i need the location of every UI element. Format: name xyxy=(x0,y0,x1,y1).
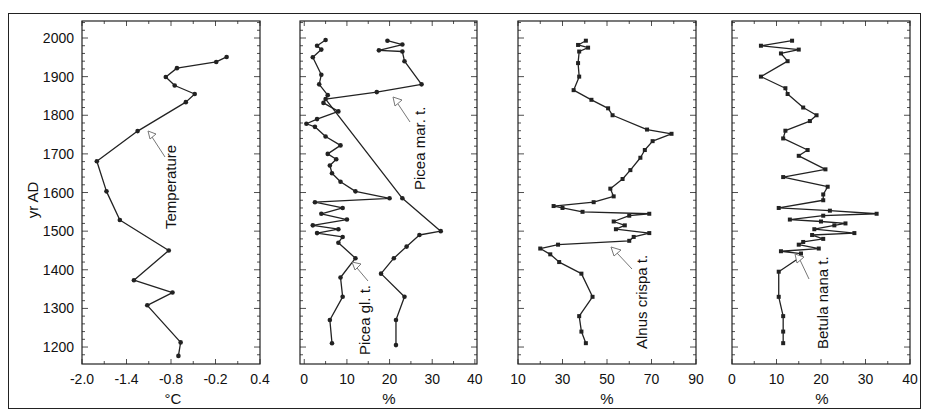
data-point xyxy=(821,237,825,241)
data-point xyxy=(783,86,787,90)
plot-area xyxy=(518,21,696,364)
data-point xyxy=(548,252,552,256)
data-point xyxy=(638,156,642,160)
data-point xyxy=(417,233,422,238)
picea-gl-arrow-icon xyxy=(352,262,368,281)
data-point xyxy=(781,175,785,179)
data-point xyxy=(786,92,790,96)
data-point xyxy=(759,44,763,48)
data-point xyxy=(584,39,588,43)
data-point xyxy=(632,235,636,239)
data-point xyxy=(557,260,561,264)
data-point xyxy=(821,198,825,202)
data-point xyxy=(328,163,333,168)
data-point xyxy=(394,318,399,323)
data-point xyxy=(325,93,330,98)
data-point xyxy=(781,314,785,318)
data-point xyxy=(166,248,171,253)
x-tick-label: 70 xyxy=(644,371,660,387)
data-point xyxy=(330,341,335,346)
data-point xyxy=(572,88,576,92)
x-tick-label: 20 xyxy=(382,371,398,387)
data-point xyxy=(438,229,443,234)
data-point xyxy=(135,129,140,134)
panel3-x-axis-title: % xyxy=(600,390,613,407)
data-point xyxy=(400,196,405,201)
data-point xyxy=(95,159,100,164)
data-point xyxy=(875,212,879,216)
data-point xyxy=(313,125,318,130)
data-point xyxy=(786,59,790,63)
data-point xyxy=(670,132,674,136)
data-point xyxy=(321,101,326,106)
data-point xyxy=(843,221,847,225)
data-point xyxy=(581,210,585,214)
x-tick-label: 30 xyxy=(858,371,874,387)
data-point xyxy=(336,227,341,232)
panel1-x-axis-title: °C xyxy=(165,390,182,407)
x-tick-label: 20 xyxy=(813,371,829,387)
data-point xyxy=(781,136,785,140)
data-point xyxy=(759,75,763,79)
data-point xyxy=(808,119,812,123)
data-point xyxy=(104,189,109,194)
x-tick-label: -0.8 xyxy=(159,371,183,387)
data-point xyxy=(340,295,345,300)
data-point xyxy=(172,83,177,88)
data-point xyxy=(577,314,581,318)
data-point xyxy=(627,214,631,218)
data-point xyxy=(647,212,651,216)
data-point xyxy=(852,231,856,235)
data-point xyxy=(323,134,328,139)
data-point xyxy=(338,143,343,148)
data-point xyxy=(353,256,358,261)
data-point xyxy=(145,303,150,308)
data-point xyxy=(323,38,328,43)
data-point xyxy=(579,272,583,276)
data-point xyxy=(579,330,583,334)
data-point xyxy=(340,206,345,211)
data-point xyxy=(317,82,322,87)
data-point xyxy=(779,51,783,55)
y-tick-label: 1200 xyxy=(43,339,74,355)
data-point xyxy=(338,275,343,280)
data-point xyxy=(799,252,803,256)
x-tick-label: 10 xyxy=(769,371,785,387)
pollen-temperature-chart: -2.0-1.4-0.8-0.20.4120013001400150016001… xyxy=(0,0,930,419)
data-point xyxy=(614,227,618,231)
x-tick-label: 50 xyxy=(599,371,615,387)
data-point xyxy=(353,189,358,194)
x-tick-label: 0.4 xyxy=(250,371,270,387)
data-point xyxy=(586,46,590,50)
panel2-x-axis-title: % xyxy=(382,390,395,407)
x-tick-label: 30 xyxy=(555,371,571,387)
x-tick-label: -0.2 xyxy=(203,371,227,387)
data-point xyxy=(313,200,318,205)
data-point xyxy=(826,185,830,189)
data-point xyxy=(400,49,405,54)
data-point xyxy=(330,171,335,176)
data-point xyxy=(385,38,390,43)
data-point xyxy=(402,295,407,300)
data-point xyxy=(325,152,330,157)
y-tick-label: 1800 xyxy=(43,107,74,123)
series-line xyxy=(326,41,441,345)
panel-3: 1030507090 xyxy=(510,21,704,387)
data-point xyxy=(328,318,333,323)
data-point xyxy=(118,218,123,223)
data-point xyxy=(801,240,805,244)
data-point xyxy=(592,200,596,204)
data-point xyxy=(797,154,801,158)
data-point xyxy=(340,235,345,240)
data-point xyxy=(170,290,175,295)
data-point xyxy=(345,217,350,222)
data-point xyxy=(797,243,801,247)
data-point xyxy=(184,100,189,105)
temperature-arrow-icon xyxy=(148,131,165,157)
data-point xyxy=(584,341,588,345)
plot-area xyxy=(300,21,477,364)
data-point xyxy=(377,48,382,53)
data-point xyxy=(192,92,197,97)
data-point xyxy=(621,177,625,181)
data-point xyxy=(819,219,823,223)
